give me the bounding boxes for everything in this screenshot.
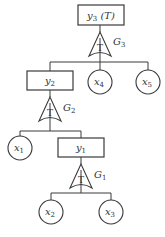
node-y2: y2 bbox=[27, 71, 73, 90]
node-x4: x4 bbox=[88, 70, 112, 94]
gate-type-g1: T bbox=[78, 175, 84, 185]
node-y1: y1 bbox=[58, 138, 104, 157]
gate-type-g3: T bbox=[97, 43, 103, 53]
gate-g2: T G2 bbox=[39, 97, 75, 131]
node-x5: x5 bbox=[136, 70, 160, 94]
gate-g3: T G3 bbox=[89, 32, 125, 62]
gate-label-g3: G3 bbox=[113, 36, 125, 49]
node-y3: y3 (T) bbox=[78, 5, 124, 25]
gate-label-g1: G1 bbox=[94, 169, 106, 182]
gate-label-g2: G2 bbox=[63, 102, 75, 115]
gate-type-g2: T bbox=[47, 108, 53, 118]
node-x1: x1 bbox=[8, 136, 32, 160]
node-x2: x2 bbox=[39, 200, 63, 224]
fault-tree-diagram: y3 (T) T G3 y2 x4 x5 T G2 x1 bbox=[0, 0, 165, 237]
gate-g1: T G1 bbox=[70, 164, 106, 193]
node-x3: x3 bbox=[99, 200, 123, 224]
